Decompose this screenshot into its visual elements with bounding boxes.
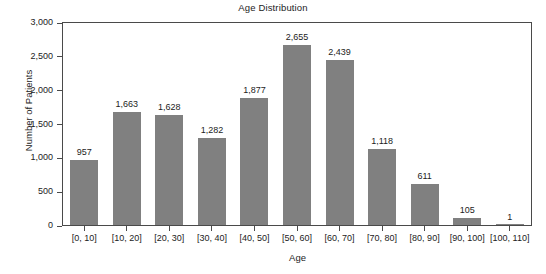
y-tick-mark	[57, 56, 62, 57]
y-tick-label: 0	[0, 220, 53, 230]
x-tick-mark	[211, 226, 212, 231]
plot-area	[63, 23, 531, 225]
x-tick-mark	[254, 226, 255, 231]
x-tick-mark	[297, 226, 298, 231]
y-tick-mark	[57, 23, 62, 24]
x-tick-mark	[424, 226, 425, 231]
y-tick-mark	[57, 158, 62, 159]
bar-value-label: 2,439	[318, 47, 361, 57]
bar-value-label: 1,877	[233, 85, 276, 95]
y-tick-label: 1,000	[0, 152, 53, 162]
y-tick-label: 500	[0, 186, 53, 196]
bar[interactable]	[113, 112, 141, 225]
x-tick-mark	[382, 226, 383, 231]
bar[interactable]	[240, 98, 268, 225]
bar-value-label: 957	[63, 147, 106, 157]
x-axis-title: Age	[62, 252, 533, 263]
bar[interactable]	[411, 184, 439, 225]
chart-figure: Age Distribution Number of Patients Age …	[0, 0, 546, 274]
x-tick-mark	[509, 226, 510, 231]
x-tick-mark	[169, 226, 170, 231]
y-tick-mark	[57, 90, 62, 91]
bar-value-label: 1	[488, 212, 531, 222]
bar-value-label: 1,628	[148, 102, 191, 112]
bar[interactable]	[326, 60, 354, 225]
x-tick-mark	[126, 226, 127, 231]
bar[interactable]	[496, 224, 524, 225]
x-tick-mark	[84, 226, 85, 231]
y-tick-label: 2,000	[0, 85, 53, 95]
y-tick-label: 3,000	[0, 17, 53, 27]
x-tick-label: [100, 110]	[484, 233, 535, 243]
chart-title: Age Distribution	[0, 2, 546, 13]
x-tick-mark	[339, 226, 340, 231]
bar[interactable]	[368, 149, 396, 225]
y-tick-mark	[57, 226, 62, 227]
bar[interactable]	[198, 138, 226, 225]
y-axis-title: Number of Patients	[23, 21, 34, 201]
bar-value-label: 1,282	[191, 125, 234, 135]
bar-value-label: 2,655	[276, 32, 319, 42]
y-tick-label: 1,500	[0, 119, 53, 129]
y-tick-mark	[57, 124, 62, 125]
bar[interactable]	[453, 218, 481, 225]
y-tick-mark	[57, 192, 62, 193]
bar[interactable]	[155, 115, 183, 225]
bar[interactable]	[70, 160, 98, 225]
bar-value-label: 105	[446, 205, 489, 215]
bar-value-label: 1,663	[106, 99, 149, 109]
y-tick-label: 2,500	[0, 51, 53, 61]
bar-value-label: 611	[403, 171, 446, 181]
bar-value-label: 1,118	[361, 136, 404, 146]
bar[interactable]	[283, 45, 311, 225]
x-tick-mark	[467, 226, 468, 231]
